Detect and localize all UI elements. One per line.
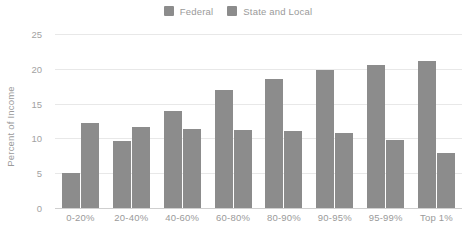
y-axis-tick-label: 25: [0, 29, 42, 40]
bar-group: [157, 34, 208, 208]
x-axis-tick-labels: 0-20%20-40%40-60%60-80%80-90%90-95%95-99…: [55, 210, 462, 230]
bar[interactable]: [386, 140, 404, 208]
bar[interactable]: [81, 123, 99, 208]
x-axis-tick-label: 60-80%: [216, 212, 250, 223]
y-axis-tick-label: 10: [0, 133, 42, 144]
x-axis-tick-label: 20-40%: [114, 212, 148, 223]
bar-group: [208, 34, 259, 208]
y-axis-tick-label: 0: [0, 203, 42, 214]
bar[interactable]: [215, 90, 233, 208]
plot-area: [55, 34, 462, 208]
legend-entry-state-and-local[interactable]: State and Local: [227, 6, 312, 17]
y-axis-tick-label: 20: [0, 63, 42, 74]
bar[interactable]: [62, 173, 80, 208]
bar[interactable]: [113, 141, 131, 208]
bar-group: [55, 34, 106, 208]
legend-swatch-icon-state-and-local: [227, 6, 237, 16]
bar[interactable]: [316, 70, 334, 208]
bar-group: [411, 34, 462, 208]
bar[interactable]: [265, 79, 283, 208]
bar[interactable]: [418, 61, 436, 208]
bar[interactable]: [437, 153, 455, 208]
bar-group: [360, 34, 411, 208]
legend-swatch-icon-federal: [164, 6, 174, 16]
bar[interactable]: [234, 130, 252, 208]
x-axis-tick-label: 90-95%: [318, 212, 352, 223]
bar[interactable]: [183, 129, 201, 208]
x-axis-tick-label: 95-99%: [369, 212, 403, 223]
chart-legend: Federal State and Local: [0, 4, 476, 18]
bar-group: [259, 34, 310, 208]
legend-entry-federal[interactable]: Federal: [164, 6, 214, 17]
y-axis-tick-labels: 0510152025: [0, 34, 50, 208]
bar-group: [309, 34, 360, 208]
x-axis-line: [55, 208, 462, 209]
bar[interactable]: [335, 133, 353, 208]
bar-chart: Federal State and Local Percent of Incom…: [0, 0, 476, 237]
x-axis-tick-label: 0-20%: [66, 212, 94, 223]
bar[interactable]: [164, 111, 182, 208]
y-axis-tick-label: 15: [0, 98, 42, 109]
bar[interactable]: [132, 127, 150, 208]
bar[interactable]: [284, 131, 302, 208]
x-axis-tick-label: Top 1%: [420, 212, 453, 223]
legend-label-state-and-local: State and Local: [243, 6, 312, 17]
bar-group: [106, 34, 157, 208]
y-axis-tick-label: 5: [0, 168, 42, 179]
bar[interactable]: [367, 65, 385, 208]
x-axis-tick-label: 40-60%: [165, 212, 199, 223]
legend-label-federal: Federal: [180, 6, 214, 17]
x-axis-tick-label: 80-90%: [267, 212, 301, 223]
